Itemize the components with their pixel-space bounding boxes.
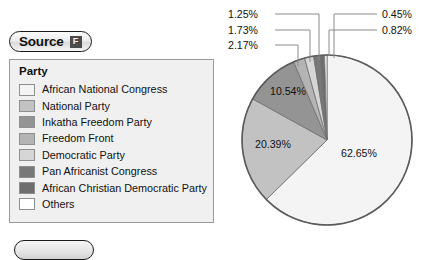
callout-label-0-82: 0.82% <box>382 25 412 36</box>
leader-line-0-82 <box>329 30 377 56</box>
source-button-label: Source <box>19 35 64 49</box>
leader-line-1-25 <box>275 14 319 60</box>
legend-item-label: Pan Africanist Congress <box>42 166 157 177</box>
legend-row[interactable]: Freedom Front <box>19 131 213 147</box>
legend-row[interactable]: African National Congress <box>19 82 213 98</box>
left-panel: Source F Party African National Congress… <box>0 0 222 249</box>
legend-swatch <box>19 133 35 145</box>
legend-item-label: Inkatha Freedom Party <box>42 117 152 128</box>
legend-swatch <box>19 84 35 96</box>
legend-item-label: National Party <box>42 101 110 112</box>
callout-label-1-25: 1.25% <box>228 9 258 20</box>
slice-label-main: 62.65% <box>341 148 377 159</box>
legend-panel: Party African National CongressNational … <box>9 59 214 223</box>
bottom-pill-button[interactable] <box>14 240 94 260</box>
legend-list: African National CongressNational PartyI… <box>19 82 213 213</box>
legend-row[interactable]: African Christian Democratic Party <box>19 180 213 196</box>
legend-swatch <box>19 149 35 161</box>
legend-item-label: Freedom Front <box>42 133 113 144</box>
legend-item-label: African Christian Democratic Party <box>42 183 207 194</box>
legend-row[interactable]: Democratic Party <box>19 147 213 163</box>
source-button[interactable]: Source F <box>9 31 92 52</box>
pie-chart-graphic <box>222 0 428 249</box>
legend-row[interactable]: Others <box>19 196 213 212</box>
legend-swatch <box>19 166 35 178</box>
callout-label-0-45: 0.45% <box>382 9 412 20</box>
legend-item-label: African National Congress <box>42 84 167 95</box>
legend-row[interactable]: Pan Africanist Congress <box>19 163 213 179</box>
legend-row[interactable]: National Party <box>19 98 213 114</box>
callout-label-1-73: 1.73% <box>228 25 258 36</box>
legend-item-label: Others <box>42 199 74 210</box>
legend-swatch <box>19 100 35 112</box>
legend-swatch <box>19 182 35 194</box>
slice-label-third: 10.54% <box>270 86 306 97</box>
source-badge-icon: F <box>70 36 82 48</box>
legend-swatch <box>19 198 35 210</box>
pie-chart-panel: 1.25% 1.73% 2.17% 0.45% 0.82% 62.65% 20.… <box>222 0 428 249</box>
legend-row[interactable]: Inkatha Freedom Party <box>19 114 213 130</box>
legend-swatch <box>19 116 35 128</box>
callout-label-2-17: 2.17% <box>228 40 258 51</box>
slice-label-second: 20.39% <box>255 139 291 150</box>
leader-line-0-45 <box>334 14 377 58</box>
legend-item-label: Democratic Party <box>42 150 125 161</box>
legend-title: Party <box>19 66 213 78</box>
